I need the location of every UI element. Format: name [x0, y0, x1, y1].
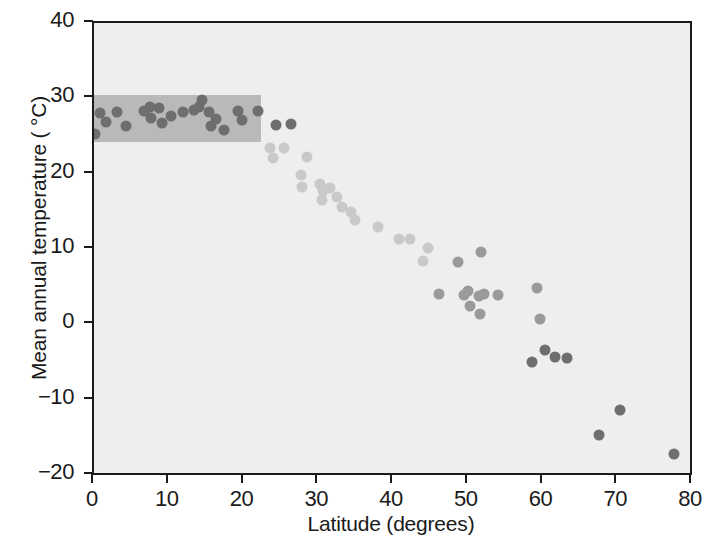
- x-axis-tick-label: 80: [660, 486, 704, 512]
- data-point: [218, 125, 229, 136]
- y-axis-line: [92, 21, 94, 475]
- data-point: [350, 214, 361, 225]
- data-point: [270, 119, 281, 130]
- data-point: [593, 429, 604, 440]
- data-point: [478, 288, 489, 299]
- data-point: [285, 119, 296, 130]
- data-point: [423, 242, 434, 253]
- x-axis-tick: [390, 474, 392, 483]
- x-axis-tick-label: 10: [137, 486, 197, 512]
- plot-area: [92, 21, 690, 473]
- y-axis-tick: [84, 20, 93, 22]
- x-axis-tick-label: 50: [436, 486, 496, 512]
- data-point: [279, 143, 290, 154]
- data-point: [166, 110, 177, 121]
- data-point: [462, 285, 473, 296]
- x-axis-tick-label: 0: [62, 486, 122, 512]
- y-axis-title: Mean annual temperature ( °C): [27, 13, 51, 463]
- y-axis-tick: [84, 246, 93, 248]
- data-point: [264, 142, 275, 153]
- x-axis-tick: [241, 474, 243, 483]
- x-axis-tick-label: 60: [511, 486, 571, 512]
- x-axis-title: Latitude (degrees): [92, 512, 690, 536]
- x-axis-tick: [315, 474, 317, 483]
- data-point: [302, 152, 313, 163]
- plot-top-border: [92, 21, 692, 23]
- data-point: [492, 290, 503, 301]
- x-axis-tick-label: 20: [212, 486, 272, 512]
- data-point: [404, 234, 415, 245]
- data-point: [156, 118, 167, 129]
- data-point: [534, 314, 545, 325]
- y-axis-tick: [84, 95, 93, 97]
- data-point: [474, 309, 485, 320]
- data-point: [562, 353, 573, 364]
- data-point: [527, 356, 538, 367]
- data-point: [453, 257, 464, 268]
- data-point: [154, 103, 165, 114]
- data-point: [394, 233, 405, 244]
- x-axis-tick-label: 30: [286, 486, 346, 512]
- x-axis-tick: [540, 474, 542, 483]
- data-point: [531, 283, 542, 294]
- x-axis-tick: [166, 474, 168, 483]
- x-axis-line: [92, 473, 692, 475]
- data-point: [418, 256, 429, 267]
- x-axis-tick-label: 70: [585, 486, 645, 512]
- data-point: [121, 121, 132, 132]
- data-point: [317, 194, 328, 205]
- data-point: [475, 246, 486, 257]
- data-point: [101, 116, 112, 127]
- x-axis-tick: [614, 474, 616, 483]
- data-point: [146, 113, 157, 124]
- y-axis-tick: [84, 171, 93, 173]
- data-point: [433, 288, 444, 299]
- y-axis-tick: [84, 397, 93, 399]
- x-axis-tick: [689, 474, 691, 483]
- y-axis-tick: [84, 321, 93, 323]
- x-axis-tick: [91, 474, 93, 483]
- data-point: [236, 114, 247, 125]
- data-point: [549, 351, 560, 362]
- data-point: [668, 449, 679, 460]
- data-point: [373, 222, 384, 233]
- data-point: [267, 153, 278, 164]
- data-point: [178, 107, 189, 118]
- x-axis-tick-label: 40: [361, 486, 421, 512]
- x-axis-tick: [465, 474, 467, 483]
- data-point: [196, 95, 207, 106]
- data-point: [295, 169, 306, 180]
- data-point: [211, 113, 222, 124]
- data-point: [297, 182, 308, 193]
- data-point: [111, 107, 122, 118]
- data-point: [465, 300, 476, 311]
- data-point: [615, 404, 626, 415]
- plot-right-border: [690, 21, 692, 475]
- data-point: [252, 105, 263, 116]
